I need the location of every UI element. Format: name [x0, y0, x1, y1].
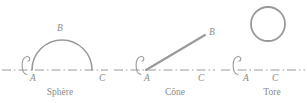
sphere-rotation-arrow-icon	[22, 56, 30, 74]
tore-panel-graphics	[221, 7, 305, 75]
cone-point-label-c: C	[198, 74, 204, 84]
tore-point-label-a: A	[243, 74, 249, 84]
tore-point-label-c: C	[272, 74, 278, 84]
cone-panel-graphics	[114, 35, 215, 75]
cone-generatrix-line	[146, 35, 205, 70]
tore-caption: Tore	[222, 88, 307, 98]
sphere-point-label-c: C	[99, 74, 105, 84]
tore-generating-circle	[251, 7, 285, 41]
revolution-solids-figure: A B C Sphère A B C Cône A C Tore	[0, 0, 307, 103]
cone-caption: Cône	[125, 88, 225, 98]
sphere-panel-graphics	[2, 40, 108, 75]
cone-point-label-a: A	[144, 74, 150, 84]
sphere-point-label-a: A	[30, 74, 36, 84]
tore-rotation-arrow-icon	[233, 56, 241, 74]
cone-rotation-arrow-icon	[136, 56, 144, 74]
sphere-semicircle-arc	[32, 40, 92, 70]
sphere-caption: Sphère	[0, 88, 120, 98]
cone-point-label-b: B	[209, 28, 215, 38]
sphere-point-label-b: B	[57, 24, 63, 34]
